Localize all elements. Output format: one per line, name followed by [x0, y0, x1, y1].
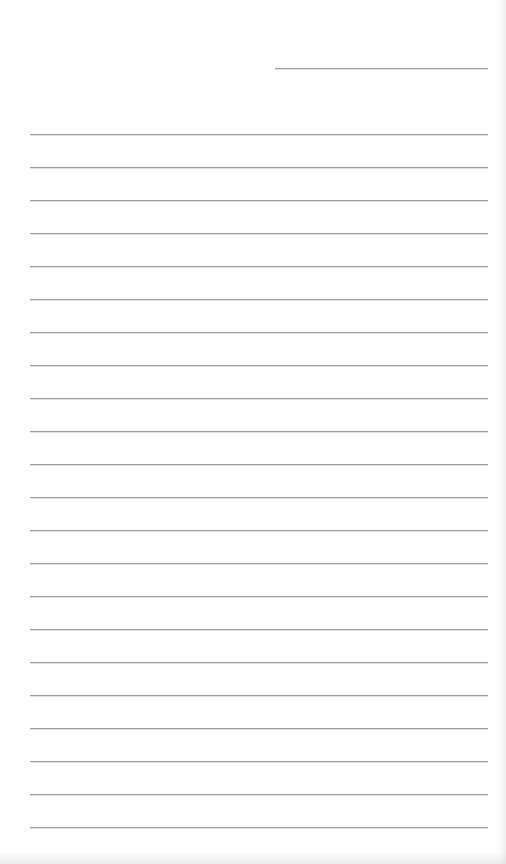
ruled-line [30, 233, 488, 234]
ruled-line [30, 398, 488, 399]
ruled-line [30, 695, 488, 696]
ruled-line [30, 299, 488, 300]
ruled-line [30, 728, 488, 729]
ruled-line [30, 629, 488, 630]
ruled-line [30, 794, 488, 795]
ruled-line [30, 662, 488, 663]
ruled-line [30, 761, 488, 762]
ruled-line [30, 332, 488, 333]
ruled-line [30, 266, 488, 267]
ruled-line [30, 431, 488, 432]
ruled-line [30, 596, 488, 597]
ruled-line [30, 497, 488, 498]
lined-paper-page [0, 0, 506, 864]
ruled-line [30, 563, 488, 564]
ruled-line [30, 200, 488, 201]
ruled-line [30, 167, 488, 168]
page-right-edge-shadow [499, 0, 506, 864]
ruled-line [30, 464, 488, 465]
ruled-line [30, 365, 488, 366]
ruled-line [30, 530, 488, 531]
ruled-line [30, 134, 488, 135]
ruled-line [30, 827, 488, 828]
page-bottom-edge-shadow [0, 852, 506, 864]
header-write-line [275, 68, 488, 69]
